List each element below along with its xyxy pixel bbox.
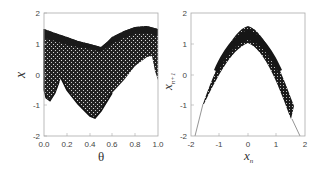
right-x-axis-label: xn	[243, 148, 254, 165]
left-y-axis-label: x	[13, 71, 28, 79]
svg-text:2: 2	[303, 140, 308, 149]
right-panel: 2 1 0 -1 -2 -2 -1 0 1 2 xn xn+1	[160, 9, 308, 165]
svg-text:xn+1: xn+1	[160, 72, 177, 91]
svg-text:-1: -1	[215, 140, 223, 149]
svg-text:0.4: 0.4	[84, 140, 96, 149]
svg-text:-1: -1	[180, 101, 188, 110]
svg-text:0: 0	[183, 71, 188, 80]
left-x-axis-label: θ	[98, 149, 104, 164]
right-tick-marks	[191, 44, 276, 136]
svg-text:-1: -1	[33, 101, 41, 110]
svg-text:-2: -2	[187, 140, 195, 149]
svg-text:0.0: 0.0	[38, 140, 50, 149]
right-tail-line	[292, 119, 300, 136]
svg-text:0.6: 0.6	[106, 140, 118, 149]
svg-text:0.2: 0.2	[61, 140, 73, 149]
right-return-map-band	[195, 26, 300, 136]
svg-text:0: 0	[36, 71, 41, 80]
svg-text:1: 1	[274, 140, 279, 149]
svg-text:2: 2	[183, 9, 188, 18]
right-y-axis-label: xn+1	[160, 72, 177, 91]
left-panel: 2 1 0 -1 -2 0.0 0.2 0.4 0.6 0.8 1.0 θ x	[13, 9, 164, 164]
svg-text:2: 2	[36, 9, 41, 18]
svg-text:1: 1	[36, 40, 41, 49]
svg-text:0.8: 0.8	[129, 140, 141, 149]
svg-text:1.0: 1.0	[152, 140, 164, 149]
right-y-tick-labels: 2 1 0 -1 -2	[180, 9, 188, 141]
left-y-tick-labels: 2 1 0 -1 -2	[33, 9, 41, 141]
left-x-tick-labels: 0.0 0.2 0.4 0.6 0.8 1.0	[38, 140, 164, 149]
left-tail-line	[195, 104, 203, 136]
figure: 2 1 0 -1 -2 0.0 0.2 0.4 0.6 0.8 1.0 θ x	[0, 0, 322, 169]
left-data-cloud	[44, 26, 158, 118]
svg-text:1: 1	[183, 40, 188, 49]
svg-text:-2: -2	[180, 132, 188, 141]
